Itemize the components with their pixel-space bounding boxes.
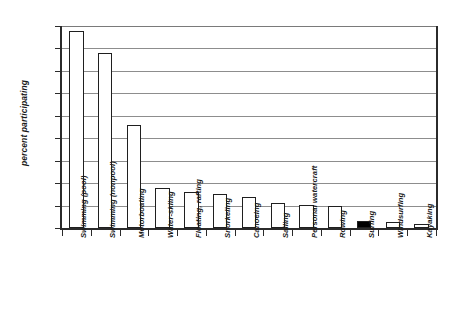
x-axis-tick-label: Personal watercraft [310,166,319,238]
x-axis-tick-mark [62,230,63,236]
x-axis-tick-mark [120,230,121,236]
bar-series [62,26,436,228]
x-axis-tick-mark [321,230,322,236]
x-axis-tick-label: Kayaking [425,203,434,238]
x-axis-tick-mark [263,230,264,236]
x-axis-tick-mark [436,230,437,236]
x-axis-tick-label: Rowing [338,210,347,238]
x-axis-tick-label: Motorboating [137,188,146,238]
bar-slot [407,26,436,228]
x-axis-tick-mark [206,230,207,236]
x-axis-tick-label: Canoeing [252,203,261,238]
x-axis-tick-mark [148,230,149,236]
x-axis-tick-label: Snorkeling [223,198,232,238]
bar-chart: percent participating 0%5%10%15%20%25%30… [0,0,458,325]
x-axis-tick-mark [378,230,379,236]
x-axis-tick-mark [350,230,351,236]
x-axis-tick-label: Floating, rafting [194,179,203,238]
bar-slot [350,26,379,228]
x-axis-tick-label: Swimming (pool) [79,175,88,238]
x-axis-tick-mark [177,230,178,236]
x-axis-tick-label: Sailing [281,212,290,238]
bar-slot [321,26,350,228]
y-axis-title: percent participating [19,53,29,193]
x-axis-tick-mark [292,230,293,236]
bar-slot [263,26,292,228]
x-axis-tick-label: Surfing [367,211,376,238]
bar-slot [235,26,264,228]
x-axis-tick-mark [235,230,236,236]
x-axis-tick-label: Windsurfing [396,193,405,238]
x-axis-tick-mark [407,230,408,236]
x-axis-tick-label: Swimming (nonpool) [108,161,117,238]
x-axis-tick-label: Water-skiing [166,191,175,238]
x-axis-tick-mark [91,230,92,236]
